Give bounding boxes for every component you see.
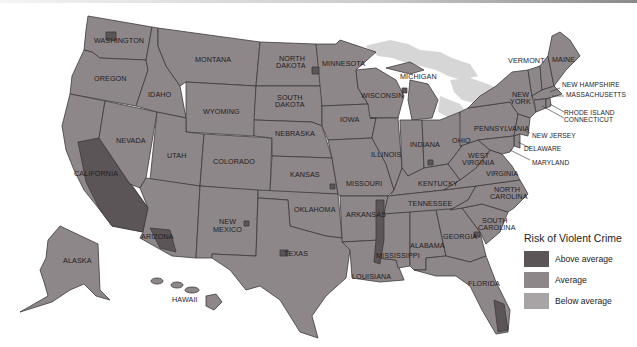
svg-text:MISSOURI: MISSOURI bbox=[346, 179, 382, 188]
legend-swatch-below-average bbox=[524, 293, 549, 309]
legend-item-above-average: Above average bbox=[524, 248, 634, 269]
svg-text:CAROLINA: CAROLINA bbox=[490, 192, 528, 201]
svg-text:YORK: YORK bbox=[510, 97, 531, 106]
svg-text:ALABAMA: ALABAMA bbox=[410, 241, 445, 250]
svg-text:IDAHO: IDAHO bbox=[148, 90, 172, 99]
svg-text:TENNESSEE: TENNESSEE bbox=[408, 199, 453, 208]
svg-text:MARYLAND: MARYLAND bbox=[532, 159, 569, 166]
svg-text:DAKOTA: DAKOTA bbox=[276, 61, 306, 70]
svg-text:OKLAHOMA: OKLAHOMA bbox=[294, 205, 336, 214]
legend-item-below-average: Below average bbox=[524, 290, 634, 311]
svg-text:MINNESOTA: MINNESOTA bbox=[322, 59, 365, 68]
svg-text:CAROLINA: CAROLINA bbox=[478, 223, 516, 232]
svg-text:NEVADA: NEVADA bbox=[116, 136, 146, 145]
svg-text:WISCONSIN: WISCONSIN bbox=[361, 91, 403, 100]
legend-label: Average bbox=[555, 275, 587, 285]
svg-text:KANSAS: KANSAS bbox=[290, 170, 320, 179]
svg-text:CONNECTICUT: CONNECTICUT bbox=[564, 116, 613, 123]
legend-swatch-above-average bbox=[524, 251, 549, 267]
state-alaska bbox=[20, 226, 110, 312]
svg-text:MEXICO: MEXICO bbox=[213, 225, 242, 234]
svg-text:HAWAII: HAWAII bbox=[172, 295, 198, 304]
svg-text:DAKOTA: DAKOTA bbox=[275, 100, 305, 109]
svg-text:MICHIGAN: MICHIGAN bbox=[400, 72, 437, 81]
svg-text:LOUISIANA: LOUISIANA bbox=[352, 272, 391, 281]
legend-label: Above average bbox=[555, 254, 613, 264]
svg-text:IOWA: IOWA bbox=[340, 115, 359, 124]
svg-text:MISSISSIPPI: MISSISSIPPI bbox=[376, 251, 420, 260]
svg-text:CALIFORNIA: CALIFORNIA bbox=[74, 169, 118, 178]
svg-text:ILLINOIS: ILLINOIS bbox=[371, 150, 401, 159]
svg-text:FLORIDA: FLORIDA bbox=[468, 279, 500, 288]
svg-text:NEW HAMPSHIRE: NEW HAMPSHIRE bbox=[562, 81, 620, 88]
state-connecticut bbox=[534, 99, 546, 112]
svg-text:MONTANA: MONTANA bbox=[195, 55, 231, 64]
svg-text:GEORGIA: GEORGIA bbox=[443, 232, 477, 241]
svg-text:UTAH: UTAH bbox=[167, 151, 186, 160]
state-florida bbox=[414, 256, 510, 334]
legend-item-average: Average bbox=[524, 269, 634, 290]
svg-text:WASHINGTON: WASHINGTON bbox=[94, 36, 144, 45]
svg-text:RHODE ISLAND: RHODE ISLAND bbox=[564, 109, 615, 116]
svg-text:MASSACHUSETTS: MASSACHUSETTS bbox=[566, 91, 626, 98]
svg-text:PENNSYLVANIA: PENNSYLVANIA bbox=[474, 124, 529, 133]
legend-label: Below average bbox=[555, 296, 612, 306]
svg-text:MAINE: MAINE bbox=[552, 55, 575, 64]
state-hawaii bbox=[151, 278, 222, 310]
svg-text:ARIZONA: ARIZONA bbox=[141, 232, 174, 241]
svg-text:WYOMING: WYOMING bbox=[203, 107, 240, 116]
legend-swatch-average bbox=[524, 272, 549, 288]
map-legend: Risk of Violent Crime Above average Aver… bbox=[524, 232, 634, 311]
svg-text:NEW JERSEY: NEW JERSEY bbox=[532, 132, 576, 139]
svg-text:TEXAS: TEXAS bbox=[284, 249, 308, 258]
legend-title: Risk of Violent Crime bbox=[524, 232, 634, 244]
svg-text:COLORADO: COLORADO bbox=[213, 157, 255, 166]
svg-text:NEBRASKA: NEBRASKA bbox=[275, 129, 315, 138]
svg-text:INDIANA: INDIANA bbox=[410, 140, 440, 149]
svg-text:OHIO: OHIO bbox=[452, 136, 471, 145]
svg-text:VERMONT: VERMONT bbox=[508, 56, 545, 65]
svg-text:DELAWARE: DELAWARE bbox=[524, 145, 562, 152]
svg-text:OREGON: OREGON bbox=[94, 74, 127, 83]
svg-text:VIRGINIA: VIRGINIA bbox=[486, 169, 518, 178]
state-rhode-island bbox=[546, 98, 551, 108]
svg-text:VIRGINIA: VIRGINIA bbox=[462, 158, 494, 167]
svg-text:ALASKA: ALASKA bbox=[63, 256, 92, 265]
state-delaware bbox=[514, 134, 520, 148]
svg-text:KENTUCKY: KENTUCKY bbox=[418, 179, 458, 188]
svg-text:ARKANSAS: ARKANSAS bbox=[346, 210, 386, 219]
